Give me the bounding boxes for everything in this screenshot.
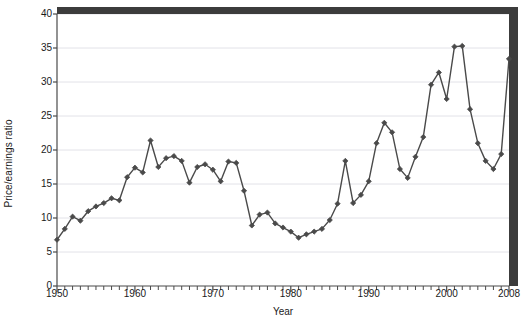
x-tick-label: 1950 — [37, 289, 77, 299]
x-tick-label: 2008 — [489, 289, 523, 299]
x-tick-label: 1960 — [115, 289, 155, 299]
x-tick-label: 2000 — [427, 289, 467, 299]
data-point-markers — [54, 43, 511, 242]
chart-figure: Price/earnings ratio 0510152025303540 19… — [0, 0, 523, 327]
x-tick-label: 1980 — [271, 289, 311, 299]
x-tick-label: 1990 — [349, 289, 389, 299]
grid-lines — [57, 14, 509, 252]
data-line-series — [57, 46, 509, 240]
plot-area — [0, 0, 523, 327]
x-tick-label: 1970 — [193, 289, 233, 299]
axis-frame — [57, 7, 518, 286]
x-axis-title: Year — [57, 306, 509, 317]
